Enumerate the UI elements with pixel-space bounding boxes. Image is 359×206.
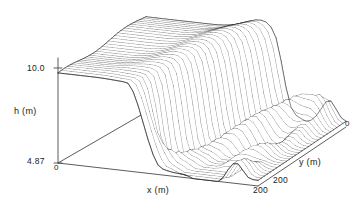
y-axis-tick-zero: 0 xyxy=(345,120,350,128)
x-axis-tick-max: 200 xyxy=(253,186,268,195)
h-axis-title: h (m) xyxy=(14,107,37,116)
y-axis-tick-max: 200 xyxy=(273,176,288,185)
h-axis-tick-min: 4.87 xyxy=(27,157,45,166)
surface-plot-figure: 10.0 4.87 0 200 200 0 h (m) x (m) y (m) xyxy=(0,0,359,206)
h-axis-tick-max: 10.0 xyxy=(27,64,45,73)
x-axis-title: x (m) xyxy=(147,186,169,195)
surface-plot-canvas xyxy=(0,0,359,206)
origin-tick-label: 0 xyxy=(54,164,59,172)
y-axis-title: y (m) xyxy=(299,158,321,167)
depth-reference-line xyxy=(58,111,148,163)
